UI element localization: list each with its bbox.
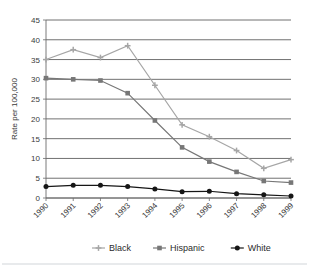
data-marker bbox=[207, 189, 212, 194]
legend-item-black[interactable]: Black bbox=[92, 243, 132, 253]
x-tick-label: 1997 bbox=[222, 201, 241, 220]
x-tick-label: 1990 bbox=[31, 201, 50, 220]
legend-label: Black bbox=[109, 243, 132, 253]
data-marker bbox=[125, 184, 130, 189]
y-tick-label: 20 bbox=[31, 115, 40, 124]
series-white bbox=[44, 183, 294, 199]
x-axis-labels: 1990199119921993199419951996199719981999 bbox=[31, 198, 295, 220]
legend-label: Hispanic bbox=[170, 243, 205, 253]
y-tick-label: 10 bbox=[31, 154, 40, 163]
data-marker bbox=[207, 159, 212, 164]
x-tick-label: 1995 bbox=[168, 201, 187, 220]
data-marker bbox=[71, 77, 76, 82]
series-line bbox=[46, 78, 291, 182]
y-tick-label: 25 bbox=[31, 95, 40, 104]
data-marker bbox=[44, 184, 49, 189]
legend-label: White bbox=[248, 243, 271, 253]
legend-item-hispanic[interactable]: Hispanic bbox=[153, 243, 205, 253]
y-tick-label: 45 bbox=[31, 16, 40, 25]
data-marker bbox=[98, 183, 103, 188]
data-marker bbox=[234, 191, 239, 196]
data-marker bbox=[235, 246, 240, 251]
x-tick-label: 1996 bbox=[195, 201, 214, 220]
y-tick-label: 15 bbox=[31, 135, 40, 144]
y-tick-label: 35 bbox=[31, 56, 40, 65]
y-tick-label: 30 bbox=[31, 75, 40, 84]
series-hispanic bbox=[44, 76, 294, 185]
legend: BlackHispanicWhite bbox=[92, 243, 271, 253]
series-line bbox=[46, 46, 291, 169]
data-marker bbox=[71, 183, 76, 188]
x-tick-label: 1993 bbox=[113, 201, 132, 220]
x-tick-label: 1998 bbox=[249, 201, 268, 220]
x-tick-label: 1991 bbox=[59, 201, 78, 220]
y-tick-label: 5 bbox=[36, 174, 41, 183]
data-marker bbox=[44, 76, 49, 81]
series-line bbox=[46, 185, 291, 196]
gridlines: 051015202530354045 bbox=[31, 16, 291, 203]
legend-item-white[interactable]: White bbox=[231, 243, 271, 253]
series-black bbox=[43, 43, 294, 171]
chart-container: 051015202530354045Rate per 100,000199019… bbox=[0, 0, 309, 272]
data-marker bbox=[289, 180, 294, 185]
data-marker bbox=[153, 118, 158, 123]
x-tick-label: 1992 bbox=[86, 201, 105, 220]
x-tick-label: 1999 bbox=[276, 201, 295, 220]
y-tick-label: 40 bbox=[31, 36, 40, 45]
data-marker bbox=[125, 91, 130, 96]
data-marker bbox=[98, 78, 103, 83]
line-chart: 051015202530354045Rate per 100,000199019… bbox=[0, 0, 309, 272]
data-marker bbox=[261, 179, 266, 184]
data-marker bbox=[261, 192, 266, 197]
data-marker bbox=[289, 194, 294, 199]
x-tick-label: 1994 bbox=[140, 201, 159, 220]
data-marker bbox=[180, 145, 185, 150]
data-marker bbox=[152, 186, 157, 191]
data-marker bbox=[157, 246, 162, 251]
data-marker bbox=[180, 189, 185, 194]
data-marker bbox=[234, 170, 239, 175]
y-tick-label: 0 bbox=[36, 194, 41, 203]
y-axis-title: Rate per 100,000 bbox=[10, 78, 19, 140]
